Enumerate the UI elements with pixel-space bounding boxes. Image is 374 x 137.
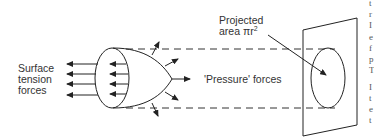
edge-text-fragment: p bbox=[369, 54, 374, 64]
edge-text-fragment: e bbox=[369, 104, 373, 114]
pressure-arrow bbox=[152, 103, 158, 116]
edge-text-fragments: trIefpTItet bbox=[369, 0, 374, 125]
edge-text-fragment: I bbox=[369, 82, 372, 92]
edge-text-fragment: t bbox=[369, 115, 372, 125]
edge-text-fragment: t bbox=[369, 0, 372, 8]
radial-pressure-arrows bbox=[152, 42, 190, 116]
edge-text-fragment: t bbox=[369, 93, 372, 103]
edge-text-fragment: r bbox=[369, 9, 372, 19]
bubble-rim-ellipse bbox=[95, 48, 129, 108]
edge-text-fragment: f bbox=[369, 43, 372, 53]
edge-text-fragment: I bbox=[369, 20, 372, 30]
projected-area-ellipse bbox=[311, 48, 345, 108]
edge-text-fragment: T bbox=[369, 65, 374, 75]
bubble-cap bbox=[113, 48, 172, 108]
projected-area-text: area πr bbox=[219, 25, 254, 37]
surface-tension-label-line3: forces bbox=[18, 84, 47, 96]
projected-area-label-line2: area πr2 bbox=[219, 25, 258, 37]
surface-tension-arrows-outer bbox=[67, 64, 98, 95]
squared-superscript: 2 bbox=[254, 25, 258, 32]
pressure-arrow bbox=[165, 92, 178, 100]
surface-tension-arrows-inner bbox=[110, 64, 128, 94]
pressure-arrow bbox=[165, 59, 178, 66]
edge-text-fragment: e bbox=[369, 32, 373, 42]
pressure-forces-label: 'Pressure' forces bbox=[204, 73, 282, 85]
bubble-force-diagram: Surface tension forces 'Pressure' forces… bbox=[0, 0, 374, 137]
